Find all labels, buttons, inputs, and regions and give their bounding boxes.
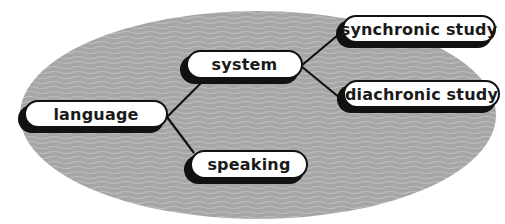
diagram-canvas: language system speaking synchronic stud… [0, 0, 505, 224]
node-speaking: speaking [190, 150, 308, 179]
node-system: system [186, 50, 303, 79]
node-label: speaking [207, 155, 290, 174]
node-pill: diachronic study [343, 80, 500, 108]
node-pill: synchronic study [342, 15, 496, 43]
node-language: language [24, 100, 168, 128]
node-label: language [53, 105, 138, 124]
node-synchronic-study: synchronic study [342, 15, 496, 43]
node-pill: speaking [190, 150, 308, 179]
node-label: system [212, 55, 278, 74]
node-pill: system [186, 50, 303, 79]
node-diachronic-study: diachronic study [343, 80, 500, 108]
node-label: synchronic study [341, 20, 498, 39]
node-pill: language [24, 100, 168, 128]
node-label: diachronic study [345, 85, 498, 104]
